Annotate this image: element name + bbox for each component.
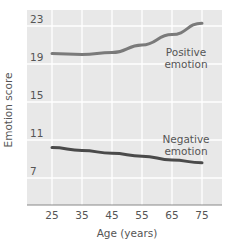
x-axis-ticks: 253545556575 [45,209,208,221]
x-axis-title: Age (years) [97,227,158,239]
y-tick-label: 19 [30,51,43,63]
x-tick-label: 45 [105,209,118,221]
positive-emotion-label: Positive [166,46,206,58]
x-tick-label: 35 [75,209,88,221]
x-tick-label: 55 [135,209,148,221]
y-axis-title: Emotion score [2,73,14,148]
x-tick-label: 75 [195,209,208,221]
x-tick-label: 65 [165,209,178,221]
y-tick-label: 23 [30,13,43,25]
y-tick-label: 15 [30,89,43,101]
negative-emotion-label-2: emotion [164,145,207,157]
plot-area [27,10,222,205]
x-tick-label: 25 [45,209,58,221]
negative-emotion-label: Negative [162,133,209,145]
line-chart: 231915117 253545556575 Positive emotion … [0,0,236,249]
y-tick-label: 11 [30,127,43,139]
positive-emotion-label-2: emotion [164,58,207,70]
y-tick-label: 7 [30,165,37,177]
